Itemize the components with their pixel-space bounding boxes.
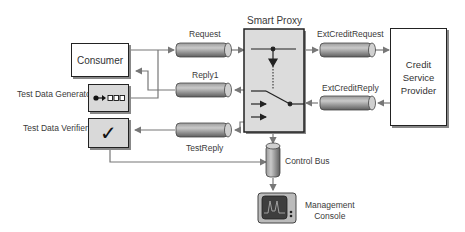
pipe-reply1[interactable] — [176, 83, 232, 97]
smart-proxy-title: Smart Proxy — [247, 15, 302, 26]
pipe-extcreditrequest[interactable] — [320, 43, 376, 57]
credit-label-line3: Provider — [401, 84, 436, 97]
channel-label-extcreditrequest: ExtCreditRequest — [317, 29, 384, 39]
test-data-verifier-label: Test Data Verifier — [23, 123, 88, 133]
channel-label-reply1: Reply1 — [192, 70, 218, 80]
credit-service-provider-box[interactable]: Credit Service Provider — [390, 28, 447, 126]
credit-label-line1: Credit — [406, 58, 431, 71]
channel-label-controlbus: Control Bus — [285, 156, 329, 166]
credit-label-line2: Service — [403, 71, 435, 84]
channel-label-extcreditreply: ExtCreditReply — [322, 83, 379, 93]
edge-proxy-testreply — [235, 122, 244, 130]
pipe-extcreditreply[interactable] — [320, 96, 376, 110]
edge-reply1-consumer — [136, 71, 175, 90]
channel-label-testreply: TestReply — [186, 143, 223, 153]
management-console-label: Management Console — [305, 200, 355, 222]
generator-icon — [89, 85, 127, 111]
pipe-controlbus[interactable] — [266, 143, 280, 177]
checkmark-icon: ✓ — [100, 121, 117, 145]
channel-label-request: Request — [189, 29, 221, 39]
pipe-testreply[interactable] — [176, 123, 232, 137]
test-data-generator-box[interactable] — [88, 84, 129, 112]
test-data-generator-label: Test Data Generator — [17, 89, 94, 99]
test-data-verifier-box[interactable]: ✓ — [88, 118, 129, 148]
management-console-icon[interactable] — [258, 193, 296, 223]
consumer-label: Consumer — [77, 55, 123, 66]
edge-generator-request — [129, 50, 158, 98]
pipe-request[interactable] — [176, 43, 232, 57]
consumer-box[interactable]: Consumer — [71, 43, 129, 77]
console-label-line2: Console — [314, 211, 345, 221]
smart-proxy-box[interactable] — [244, 29, 306, 134]
console-label-line1: Management — [305, 200, 355, 210]
